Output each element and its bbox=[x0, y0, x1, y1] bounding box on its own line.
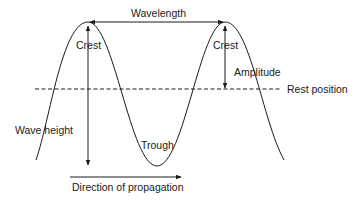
direction-label: Direction of propagation bbox=[72, 182, 184, 193]
wave-diagram bbox=[0, 0, 360, 202]
crest-left-label: Crest bbox=[76, 40, 101, 51]
wavelength-label: Wavelength bbox=[131, 8, 186, 19]
rest-position-label: Rest position bbox=[287, 84, 348, 95]
amplitude-label: Amplitude bbox=[234, 67, 281, 78]
trough-label: Trough bbox=[141, 140, 174, 151]
crest-right-label: Crest bbox=[213, 40, 238, 51]
wave-height-label: Wave height bbox=[15, 125, 73, 136]
